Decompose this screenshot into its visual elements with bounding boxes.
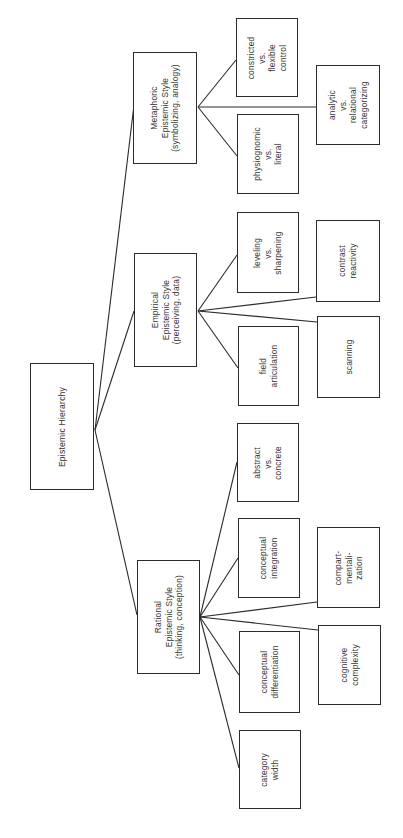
connector-empirical-contrast-reactivity (198, 297, 316, 311)
node-label: scanning (343, 339, 354, 374)
node-constricted-vs-flexible-control: constricted vs. flexible control (236, 18, 298, 97)
connector-metaphoric-physiognomic-literal (198, 107, 237, 156)
node-label: Rational Epistemic Style (thinking, conc… (153, 575, 185, 659)
connector-root-metaphoric (95, 105, 134, 430)
node-contrast-reactivity: contrast reactivity (316, 220, 380, 302)
connector-rational-cognitive-complexity (200, 617, 318, 630)
connector-root-rational (95, 430, 137, 615)
node-label: conceptual differentiation (259, 645, 280, 698)
node-empirical-epistemic-style: Empirical Epistemic Style (perceiving, d… (134, 253, 197, 367)
node-epistemic-hierarchy: Epistemic Hierarchy (30, 363, 94, 490)
node-label: leveling vs. sharpening (252, 231, 284, 274)
node-label: contrast reactivity (337, 243, 358, 278)
node-label: Epistemic Hierarchy (57, 386, 68, 466)
node-rational-epistemic-style: Rational Epistemic Style (thinking, conc… (137, 560, 200, 674)
node-label: constricted vs. flexible control (246, 36, 288, 79)
connector-rational-abstract-concrete (200, 462, 237, 617)
connector-metaphoric-constricted-flexible-control (198, 60, 236, 107)
connector-root-empirical (95, 311, 134, 430)
node-label: Metaphoric Epistemic Style (symbolizing,… (149, 64, 181, 152)
node-metaphoric-epistemic-style: Metaphoric Epistemic Style (symbolizing,… (133, 52, 197, 164)
node-compartmentalization: compart- mentali- zation (317, 527, 380, 608)
node-label: physiognomic vs. literal (252, 127, 284, 181)
node-label: conceptual integration (258, 537, 279, 580)
connector-rational-category-width (200, 617, 239, 768)
connector-rational-compartmentalization (200, 602, 317, 617)
epistemic-hierarchy-diagram: Epistemic Hierarchy Metaphoric Epistemic… (0, 0, 403, 838)
node-physiognomic-vs-literal: physiognomic vs. literal (237, 114, 299, 194)
node-abstract-vs-concrete: abstract vs. concrete (237, 423, 299, 502)
node-label: category width (259, 753, 280, 787)
node-scanning: scanning (317, 316, 380, 398)
node-leveling-vs-sharpening: leveling vs. sharpening (237, 212, 299, 293)
node-analytic-vs-relational-categorizing: analytic vs. relational categorizing (316, 65, 380, 145)
connector-rational-conceptual-differentiation (200, 617, 239, 675)
connector-empirical-leveling-sharpening (198, 255, 237, 311)
node-label: field articulation (258, 345, 279, 388)
connector-empirical-scanning (198, 311, 317, 322)
node-cognitive-complexity: cognitive complexity (318, 625, 381, 705)
node-label: abstract vs. concrete (252, 446, 284, 480)
node-field-articulation: field articulation (238, 326, 299, 406)
node-label: analytic vs. relational categorizing (327, 81, 369, 129)
node-category-width: category width (239, 730, 301, 809)
node-conceptual-integration: conceptual integration (238, 518, 300, 598)
node-label: compart- mentali- zation (333, 550, 365, 585)
node-conceptual-differentiation: conceptual differentiation (239, 631, 300, 713)
connector-rational-conceptual-integration (200, 558, 238, 617)
node-label: Empirical Epistemic Style (perceiving, d… (150, 276, 182, 344)
connector-empirical-field-articulation (198, 311, 238, 368)
node-label: cognitive complexity (339, 644, 360, 686)
